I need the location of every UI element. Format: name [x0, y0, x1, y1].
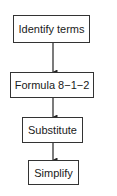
node-label: Simplify — [34, 167, 73, 179]
node-identify-terms: Identify terms — [13, 15, 90, 43]
node-simplify: Simplify — [28, 160, 79, 185]
node-label: Identify terms — [18, 23, 84, 35]
node-substitute: Substitute — [22, 117, 83, 143]
node-formula: Formula 8−1−2 — [10, 72, 94, 98]
node-label: Formula 8−1−2 — [15, 79, 90, 91]
node-label: Substitute — [28, 124, 77, 136]
